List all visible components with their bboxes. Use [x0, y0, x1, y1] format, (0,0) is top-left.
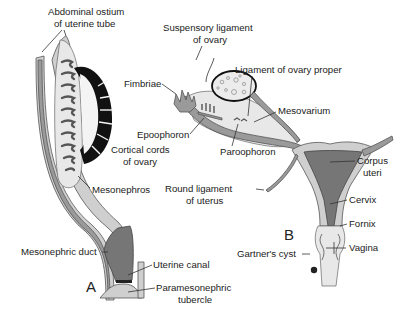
label-vagina: Vagina: [349, 242, 379, 253]
label-cortical-cords-2: of ovary: [123, 156, 157, 167]
label-uterine-canal: Uterine canal: [153, 259, 210, 270]
panel-label-a: A: [86, 278, 96, 295]
label-round-ligament-2: of uterus: [186, 195, 224, 206]
leader-suspensory-ligament: [196, 46, 202, 60]
label-mesonephric-duct: Mesonephric duct: [21, 246, 97, 257]
label-paramesonephric-tubercle: Paramesonephric: [156, 282, 231, 293]
label-fornix: Fornix: [349, 218, 376, 229]
label-corpus-uteri-2: uteri: [363, 167, 382, 178]
label-round-ligament: Round ligament: [165, 183, 233, 194]
label-suspensory-ligament: Suspensory ligament: [163, 22, 253, 33]
label-abdominal-ostium-2: of uterine tube: [54, 18, 115, 29]
label-gartners-cyst: Gartner's cyst: [237, 248, 296, 259]
label-mesonephros: Mesonephros: [92, 184, 150, 195]
label-corpus-uteri: Corpus: [357, 155, 388, 166]
label-cortical-cords: Cortical cords: [111, 144, 170, 155]
label-abdominal-ostium: Abdominal ostium: [48, 6, 124, 17]
label-fimbriae: Fimbriae: [124, 78, 161, 89]
leader-fimbriae: [162, 84, 176, 94]
label-suspensory-ligament-2: of ovary: [193, 34, 227, 45]
panel-label-b: B: [284, 226, 294, 243]
panel-a-illustration: [36, 36, 144, 300]
label-paramesonephric-tubercle-2: tubercle: [178, 294, 212, 305]
embryology-diagram: Abdominal ostium of uterine tube Cortica…: [0, 0, 402, 313]
leader-round-ligament: [256, 189, 264, 190]
label-epoophoron: Epoophoron: [137, 129, 189, 140]
label-paroophoron: Paroophoron: [220, 146, 275, 157]
label-mesovarium: Mesovarium: [278, 105, 330, 116]
label-ligament-ovary-proper: Ligament of ovary proper: [235, 64, 342, 75]
label-cervix: Cervix: [349, 194, 376, 205]
